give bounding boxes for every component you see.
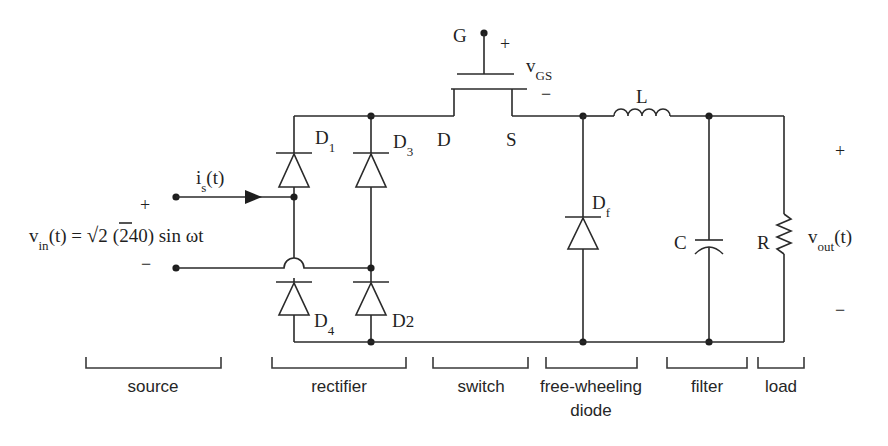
input-minus-wire [176, 258, 371, 268]
bracket-rectifier [272, 357, 406, 368]
source-current-label: is(t) [196, 167, 224, 195]
d2-label: D2 [392, 310, 414, 331]
source-label: S [506, 129, 517, 150]
gate-label: G [453, 25, 467, 46]
inductor-icon [614, 109, 670, 116]
node-d3-d2 [367, 264, 374, 271]
node-d1-d4 [290, 193, 297, 200]
bracket-filter [667, 357, 747, 368]
df-diode-icon [568, 218, 598, 249]
d2-diode-icon [356, 283, 386, 315]
section-brackets: source rectifier switch free-wheeling di… [86, 357, 804, 420]
resistor-icon [777, 214, 791, 254]
inductor-label: L [636, 86, 648, 107]
d3-diode-icon [356, 154, 386, 187]
d4-diode-icon [279, 283, 309, 315]
d3-label: D3 [393, 131, 413, 159]
section-label-freewheel: free-wheeling [540, 377, 642, 396]
section-label-rectifier: rectifier [311, 377, 367, 396]
vgs-label: vGS [526, 55, 552, 83]
d4-label: D4 [314, 310, 335, 338]
input-minus-sign: − [141, 254, 151, 274]
switch-section: G + vGS − D S [437, 25, 583, 150]
vgs-plus-sign: + [500, 34, 510, 54]
section-label-source: source [127, 377, 178, 396]
capacitor-label: C [674, 232, 687, 253]
load-section: R + vout(t) − [757, 116, 852, 342]
section-label-switch: switch [457, 377, 504, 396]
d1-label: D1 [315, 127, 335, 155]
drain-label: D [437, 129, 451, 150]
vgs-minus-sign: − [541, 84, 551, 104]
df-label: Df [592, 192, 611, 220]
input-plus-sign: + [140, 195, 150, 215]
bracket-source [86, 357, 221, 368]
source-voltage-expression: vin(t) = √2(240) sin ωt [29, 223, 204, 253]
vout-label: vout(t) [808, 226, 852, 254]
current-arrow-icon [245, 190, 262, 204]
bracket-load [758, 357, 804, 368]
rectifier-section: D1 D3 D4 D2 [276, 112, 454, 345]
bracket-switch [433, 357, 528, 368]
vout-minus-sign: − [835, 300, 845, 320]
resistor-label: R [757, 232, 770, 253]
vout-plus-sign: + [835, 141, 845, 161]
section-label-filter: filter [691, 377, 723, 396]
section-label-load: load [765, 377, 797, 396]
source-section: + − is(t) vin(t) = √2(240) sin ωt [29, 167, 371, 274]
filter-section: L C [583, 86, 784, 346]
circuit-diagram: + − is(t) vin(t) = √2(240) sin ωt [0, 0, 888, 446]
section-label-freewheel-line2: diode [570, 401, 612, 420]
freewheel-section: Df [565, 112, 611, 345]
d1-diode-icon [279, 154, 309, 187]
bracket-freewheel [546, 357, 637, 368]
